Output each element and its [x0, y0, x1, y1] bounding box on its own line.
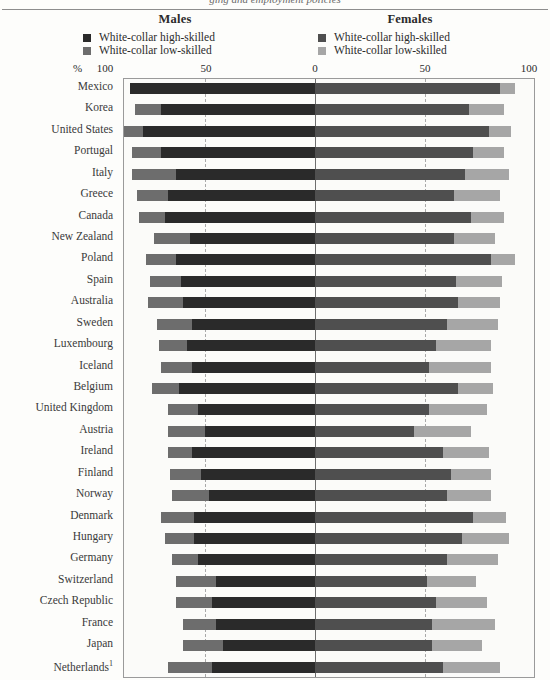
bar-segment-male-high-skilled [198, 404, 315, 415]
bar-segment-male-high-skilled [223, 640, 315, 651]
bar-segment-female-high-skilled [315, 554, 447, 565]
bar-row [124, 165, 534, 186]
bar-row [124, 486, 534, 507]
legend-item-female-low-skilled: White-collar low-skilled [318, 44, 530, 57]
bar-segment-female-low-skilled [447, 554, 498, 565]
category-label: France [0, 616, 118, 628]
category-labels: MexicoKoreaUnited StatesPortugalItalyGre… [0, 78, 118, 678]
bar-segment-male-low-skilled [168, 404, 199, 415]
bar-row [124, 636, 534, 657]
bar-segment-female-high-skilled [315, 383, 458, 394]
bar-segment-male-high-skilled [192, 319, 315, 330]
bar-segment-male-low-skilled [154, 233, 189, 244]
bar-row [124, 229, 534, 250]
bar-segment-female-low-skilled [447, 490, 491, 501]
bar-segment-female-low-skilled [458, 297, 500, 308]
legend-swatch-male-high-skilled [83, 34, 91, 42]
bar-segment-female-low-skilled [469, 104, 504, 115]
bar-segment-male-low-skilled [132, 169, 176, 180]
bar-segment-male-high-skilled [176, 254, 315, 265]
bar-segment-male-high-skilled [216, 576, 315, 587]
legend-swatch-male-low-skilled [83, 47, 91, 55]
bar-segment-female-high-skilled [315, 254, 491, 265]
category-label: Hungary [0, 530, 118, 542]
axis-tick-right-50: 50 [420, 62, 431, 74]
figure-title-cropped: ging and employment policies [0, 0, 550, 9]
bar-row [124, 400, 534, 421]
bar-segment-female-high-skilled [315, 533, 462, 544]
bar-segment-male-high-skilled [168, 190, 315, 201]
bar-segment-female-high-skilled [315, 619, 432, 630]
category-label: Ireland [0, 444, 118, 456]
bar-segment-female-low-skilled [471, 212, 504, 223]
bar-segment-male-high-skilled [192, 447, 315, 458]
bar-segment-female-low-skilled [447, 319, 498, 330]
category-label: United Kingdom [0, 401, 118, 413]
bar-segment-female-low-skilled [429, 362, 491, 373]
bar-row [124, 593, 534, 614]
category-label: Portugal [0, 144, 118, 156]
axis-percent-symbol: % [73, 62, 82, 74]
bar-row [124, 443, 534, 464]
bar-segment-female-low-skilled [473, 512, 506, 523]
bar-segment-female-high-skilled [315, 297, 458, 308]
bar-segment-female-high-skilled [315, 319, 447, 330]
bar-row [124, 208, 534, 229]
bar-segment-male-low-skilled [176, 576, 216, 587]
bar-segment-female-high-skilled [315, 447, 443, 458]
category-label: Norway [0, 487, 118, 499]
legend-label-female-high-skilled: White-collar high-skilled [334, 31, 450, 44]
bar-row [124, 100, 534, 121]
category-label: Greece [0, 187, 118, 199]
bar-segment-female-high-skilled [315, 212, 471, 223]
bar-segment-male-low-skilled [161, 362, 192, 373]
bar-segment-female-low-skilled [462, 533, 508, 544]
category-label: New Zealand [0, 230, 118, 242]
bar-segment-male-high-skilled [183, 297, 315, 308]
bar-segment-male-low-skilled [148, 297, 183, 308]
bar-segment-male-high-skilled [216, 619, 315, 630]
category-label: Denmark [0, 509, 118, 521]
bar-segment-male-high-skilled [201, 469, 315, 480]
category-label: Switzerland [0, 573, 118, 585]
category-label: United States [0, 123, 118, 135]
bar-segment-female-high-skilled [315, 426, 414, 437]
bar-segment-female-high-skilled [315, 404, 429, 415]
bar-segment-female-low-skilled [500, 83, 515, 94]
category-label: Czech Republic [0, 594, 118, 606]
figure-page: ging and employment policies Males White… [0, 0, 550, 680]
bar-segment-female-high-skilled [315, 126, 489, 137]
legend-swatch-female-high-skilled [318, 34, 326, 42]
axis-tick-left-100: 100 [97, 62, 114, 74]
bar-rows [124, 79, 534, 677]
bar-segment-female-low-skilled [454, 190, 500, 201]
bar-segment-female-low-skilled [451, 469, 491, 480]
bar-segment-male-high-skilled [143, 126, 315, 137]
bar-segment-male-high-skilled [209, 490, 315, 501]
bar-segment-female-low-skilled [443, 447, 489, 458]
bar-segment-male-high-skilled [181, 276, 315, 287]
bar-segment-male-low-skilled [132, 147, 161, 158]
bar-segment-female-low-skilled [432, 619, 496, 630]
bar-row [124, 550, 534, 571]
category-label: Germany [0, 551, 118, 563]
bar-row [124, 250, 534, 271]
bar-segment-female-high-skilled [315, 190, 454, 201]
bar-row [124, 315, 534, 336]
bar-segment-male-low-skilled [135, 104, 161, 115]
category-label: Mexico [0, 80, 118, 92]
bar-segment-male-low-skilled [165, 533, 194, 544]
bar-segment-male-high-skilled [176, 169, 315, 180]
bar-segment-male-high-skilled [194, 533, 315, 544]
bar-segment-female-high-skilled [315, 512, 473, 523]
legend-heading-females: Females [290, 12, 530, 27]
category-label: Netherlands1 [0, 659, 118, 673]
category-label: Luxembourg [0, 337, 118, 349]
bar-row [124, 336, 534, 357]
bar-segment-male-high-skilled [192, 362, 315, 373]
bar-segment-male-high-skilled [161, 104, 315, 115]
bar-segment-male-low-skilled [172, 490, 209, 501]
chart-legend: Males White-collar high-skilled White-co… [0, 12, 550, 60]
legend-item-male-low-skilled: White-collar low-skilled [83, 44, 295, 57]
bar-segment-female-high-skilled [315, 169, 465, 180]
